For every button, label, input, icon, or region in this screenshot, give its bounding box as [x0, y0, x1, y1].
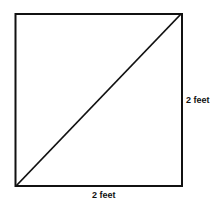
right-side-label: 2 feet [186, 95, 210, 105]
bottom-side-label: 2 feet [92, 190, 116, 200]
diagonal-line [16, 14, 181, 186]
